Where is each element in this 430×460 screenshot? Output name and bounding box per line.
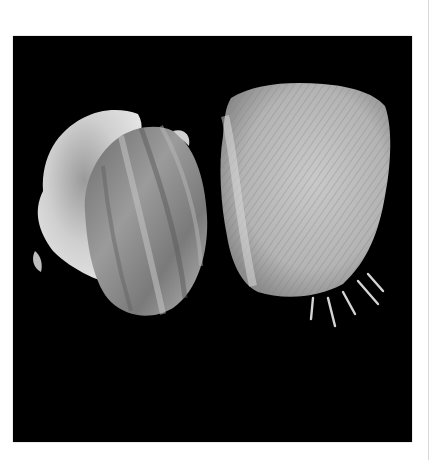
- shell-photograph: [13, 36, 412, 442]
- left-shell-outer-valve: [85, 126, 207, 316]
- page-edge-divider: [428, 0, 429, 460]
- right-spiny-shell: [220, 83, 390, 326]
